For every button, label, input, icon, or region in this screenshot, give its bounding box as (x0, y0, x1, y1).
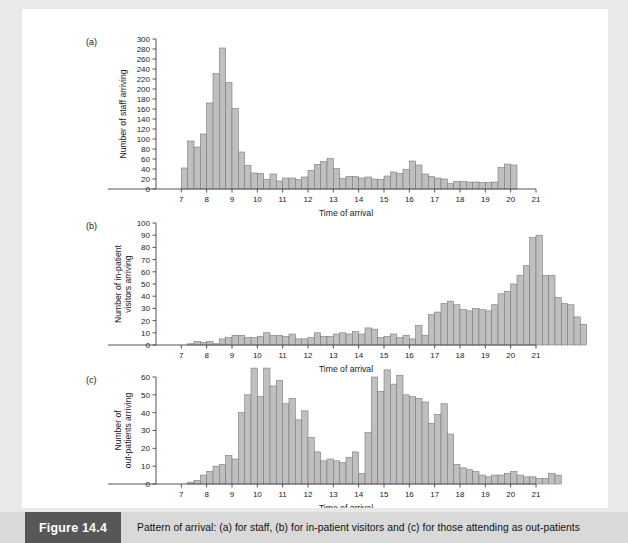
y-tick-label: 100 (137, 135, 151, 144)
histogram-bar (365, 328, 371, 345)
histogram-bar (460, 182, 466, 190)
y-tick-label: 300 (137, 35, 151, 44)
panel-c-ylabel: Number of (113, 410, 123, 451)
histogram-bar (302, 411, 308, 484)
histogram-bar (447, 301, 453, 345)
x-tick-label: 10 (253, 351, 262, 360)
histogram-bar (264, 368, 270, 484)
y-tick-label: 200 (137, 85, 151, 94)
histogram-bar (403, 395, 409, 484)
x-tick-label: 14 (354, 195, 363, 204)
histogram-bar (207, 472, 213, 484)
histogram-bar (460, 468, 466, 484)
histogram-bar (346, 177, 352, 190)
histogram-bar (270, 174, 276, 189)
x-tick-label: 17 (430, 351, 439, 360)
histogram-bar (219, 339, 225, 345)
histogram-bar (371, 329, 377, 345)
histogram-bar (359, 334, 365, 345)
y-tick-label: 0 (146, 480, 151, 489)
histogram-bar (485, 311, 491, 345)
histogram-bar (447, 434, 453, 484)
histogram-bar (422, 335, 428, 345)
x-tick-label: 10 (253, 490, 262, 499)
y-tick-label: 80 (141, 145, 150, 154)
histogram-bar (517, 275, 523, 345)
chart-panel-c: (c)0102030405060789101112131415161718192… (86, 368, 561, 508)
x-tick-label: 15 (380, 195, 389, 204)
histogram-bar (504, 291, 510, 345)
y-tick-label: 160 (137, 105, 151, 114)
histogram-bar (428, 423, 434, 484)
histogram-bar (359, 473, 365, 484)
histogram-bar (314, 452, 320, 484)
histogram-bar (371, 179, 377, 189)
histogram-bar (251, 338, 257, 345)
histogram-bar (454, 182, 460, 190)
histogram-bar (409, 161, 415, 189)
histogram-bar (384, 370, 390, 484)
histogram-bar (492, 305, 498, 345)
y-tick-label: 20 (141, 444, 150, 453)
histogram-bar (226, 338, 232, 345)
x-tick-label: 9 (230, 195, 235, 204)
histogram-bar (352, 177, 358, 190)
histogram-bar (479, 475, 485, 484)
histogram-bar (441, 404, 447, 484)
histogram-bar (314, 333, 320, 345)
x-tick-label: 13 (329, 490, 338, 499)
x-tick-label: 11 (279, 490, 288, 499)
histogram-bar (276, 181, 282, 189)
histogram-bar (257, 174, 263, 190)
x-tick-label: 12 (304, 351, 313, 360)
histogram-bar (289, 398, 295, 484)
histogram-bar (238, 335, 244, 345)
x-tick-label: 11 (279, 195, 288, 204)
x-tick-label: 9 (230, 490, 235, 499)
histogram-bar (226, 83, 232, 190)
histogram-bar (473, 182, 479, 189)
histogram-bar (435, 312, 441, 345)
panel-c-ylabel: out-patients arriving (123, 393, 133, 469)
histogram-bar (327, 159, 333, 190)
y-tick-label: 100 (137, 219, 151, 228)
x-tick-label: 18 (456, 490, 465, 499)
histogram-bar (422, 174, 428, 189)
y-tick-label: 90 (141, 231, 150, 240)
histogram-bar (530, 477, 536, 484)
y-tick-label: 140 (137, 115, 151, 124)
histogram-bar (473, 308, 479, 345)
histogram-bar (416, 165, 422, 189)
x-tick-label: 16 (405, 351, 414, 360)
histogram-bar (409, 397, 415, 484)
histogram-bar (416, 398, 422, 484)
histogram-bar (517, 475, 523, 484)
histogram-bar (498, 475, 504, 484)
panel-a-body: (a)0204060801001201401601802002202402602… (86, 35, 541, 218)
panel-c-bars (188, 368, 562, 484)
histogram-bar (308, 171, 314, 190)
histogram-bar (308, 438, 314, 484)
panel-a-ylabel: Number of staff arriving (118, 69, 128, 158)
histogram-bar (536, 235, 542, 345)
x-tick-label: 8 (204, 490, 209, 499)
y-tick-label: 120 (137, 125, 151, 134)
histogram-bar (574, 317, 580, 345)
histogram-bar (498, 294, 504, 345)
histogram-bar (378, 180, 384, 190)
histogram-bar (352, 332, 358, 345)
histogram-bar (226, 455, 232, 484)
histogram-bar (283, 178, 289, 189)
histogram-bar (333, 334, 339, 345)
y-tick-label: 10 (141, 329, 150, 338)
histogram-bar (194, 147, 200, 189)
y-tick-label: 0 (146, 185, 151, 194)
chart-panel-a: (a)0204060801001201401601802002202402602… (86, 35, 541, 218)
histogram-bar (365, 177, 371, 189)
histogram-bar (409, 339, 415, 345)
x-tick-label: 11 (279, 351, 288, 360)
histogram-bar (238, 413, 244, 484)
x-tick-label: 7 (179, 195, 184, 204)
panel-a-xlabel: Time of arrival (319, 208, 373, 218)
y-tick-label: 60 (141, 268, 150, 277)
